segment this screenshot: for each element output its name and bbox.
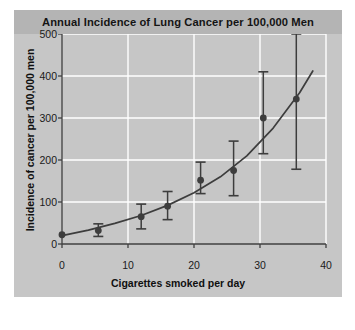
data-point xyxy=(95,227,102,234)
data-point xyxy=(59,231,66,238)
data-point xyxy=(164,203,171,210)
data-point xyxy=(138,213,145,220)
data-point xyxy=(260,115,267,122)
chart-canvas xyxy=(14,34,342,297)
trend-line xyxy=(62,71,313,236)
error-bars xyxy=(93,34,301,236)
page-title: Annual Incidence of Lung Cancer per 100,… xyxy=(42,16,314,28)
axis-lines xyxy=(58,34,326,248)
data-point xyxy=(230,167,237,174)
chart-panel: Annual Incidence of Lung Cancer per 100,… xyxy=(14,10,342,297)
data-point xyxy=(293,96,300,103)
data-point xyxy=(197,177,204,184)
gridlines xyxy=(62,34,326,244)
fit-curve xyxy=(62,71,313,236)
x-axis-label: Cigarettes smoked per day xyxy=(14,277,342,289)
plot-area: Incidence of cancer per 100,000 men 0 10… xyxy=(14,34,342,297)
chart-title-bar: Annual Incidence of Lung Cancer per 100,… xyxy=(14,10,342,34)
data-points xyxy=(59,96,300,238)
